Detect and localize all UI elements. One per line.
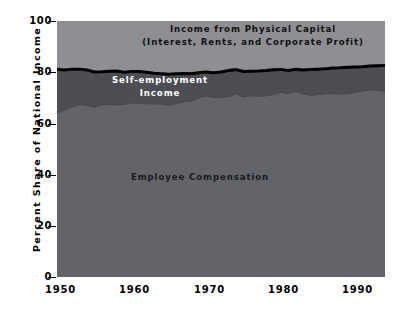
x-tick-label-1950: 1950 xyxy=(45,284,76,295)
plot-area xyxy=(57,21,385,277)
stacked-area-series xyxy=(57,21,385,277)
x-tick-label-1960: 1960 xyxy=(119,284,150,295)
y-tick-label-80: 80 xyxy=(8,66,52,77)
y-tick-label-0: 0 xyxy=(8,271,52,282)
y-tick-mark-0 xyxy=(48,277,56,278)
y-tick-mark-80 xyxy=(48,72,56,73)
y-tick-label-100: 100 xyxy=(8,15,52,26)
annotation-income-from-physical-capital: Income from Physical Capital (Interest, … xyxy=(118,23,388,48)
y-tick-label-60: 60 xyxy=(8,118,52,129)
y-tick-mark-60 xyxy=(48,124,56,125)
y-tick-mark-40 xyxy=(48,175,56,176)
x-tick-label-1980: 1980 xyxy=(268,284,299,295)
annotation-self-employment-income: Self-employment Income xyxy=(60,74,260,99)
y-tick-mark-100 xyxy=(48,21,56,22)
y-axis: 100 80 60 40 20 0 xyxy=(0,0,52,314)
y-tick-mark-20 xyxy=(48,226,56,227)
annotation-employee-compensation: Employee Compensation xyxy=(100,171,300,184)
chart-figure: Percent Share of National Income 100 80 … xyxy=(0,0,403,314)
x-tick-label-1990: 1990 xyxy=(342,284,373,295)
y-tick-label-20: 20 xyxy=(8,220,52,231)
x-tick-label-1970: 1970 xyxy=(194,284,225,295)
y-tick-label-40: 40 xyxy=(8,169,52,180)
